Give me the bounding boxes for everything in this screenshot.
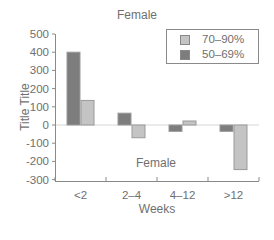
bar xyxy=(132,125,145,138)
x-axis-label: Weeks xyxy=(127,202,187,216)
bar xyxy=(118,113,131,125)
legend-swatch-50-69 xyxy=(180,50,190,60)
x-tick-label: <2 xyxy=(56,189,106,201)
y-tick-label: 400 xyxy=(9,46,49,58)
legend: 70–90% 50–69% xyxy=(166,29,259,64)
x-tick-label: 2–4 xyxy=(107,189,157,201)
legend-item-50-69: 50–69% xyxy=(180,48,244,60)
x-tick-label: >12 xyxy=(209,189,259,201)
y-axis-label: Title Title xyxy=(18,77,32,137)
bar xyxy=(220,125,233,131)
legend-swatch-70-90 xyxy=(180,35,190,45)
bar xyxy=(234,125,247,170)
y-tick-label: 500 xyxy=(9,28,49,40)
bar xyxy=(169,125,182,131)
legend-label: 70–90% xyxy=(202,33,244,45)
legend-label: 50–69% xyxy=(202,48,244,60)
legend-item-70-90: 70–90% xyxy=(180,33,244,45)
bar xyxy=(67,52,80,125)
y-tick-label: -200 xyxy=(9,155,49,167)
x-tick-label: 4–12 xyxy=(158,189,208,201)
bar xyxy=(183,121,196,125)
y-tick-label: -100 xyxy=(9,137,49,149)
bar xyxy=(81,100,94,125)
y-tick-label: 300 xyxy=(9,64,49,76)
chart-annotation: Female xyxy=(136,156,176,170)
y-tick-label: -300 xyxy=(9,174,49,186)
